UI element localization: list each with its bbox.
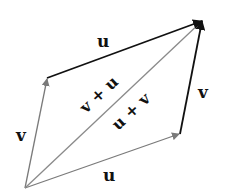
vector-u-top [47, 21, 202, 78]
label-v-right: v [197, 82, 209, 102]
vector-parallelogram-diagram: u v u v v + u u + v [0, 0, 227, 190]
label-sum-upper: v + u [75, 72, 122, 118]
vector-v-left [25, 79, 47, 188]
label-u-top: u [97, 31, 109, 51]
vector-u-bottom [25, 134, 179, 188]
label-v-left: v [15, 125, 27, 145]
label-u-bottom: u [103, 165, 115, 185]
label-sum-lower: u + v [108, 89, 155, 134]
vector-sum-diagonal [25, 21, 202, 188]
